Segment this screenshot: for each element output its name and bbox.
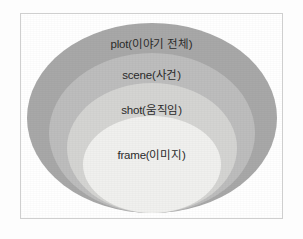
- ellipse-label-plot: plot(이야기 전체): [21, 35, 282, 51]
- ellipse-frame: [83, 116, 221, 213]
- ellipse-label-shot: shot(움직임): [21, 101, 282, 117]
- figure-root: plot(이야기 전체) scene(사건) shot(움직임) frame(이…: [0, 0, 303, 239]
- ellipse-label-scene: scene(사건): [21, 66, 282, 82]
- diagram-frame: plot(이야기 전체) scene(사건) shot(움직임) frame(이…: [20, 13, 283, 219]
- ellipse-label-frame: frame(이미지): [21, 146, 282, 162]
